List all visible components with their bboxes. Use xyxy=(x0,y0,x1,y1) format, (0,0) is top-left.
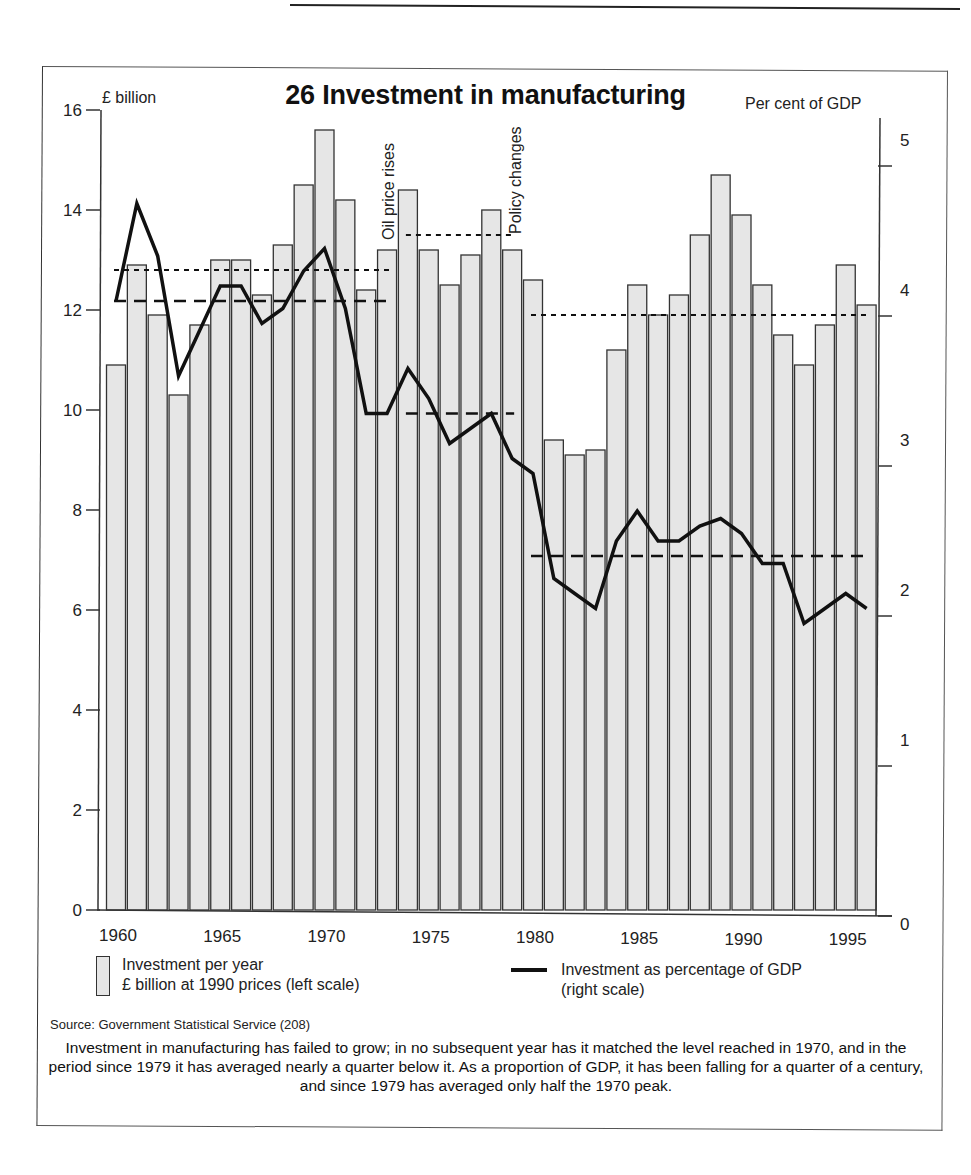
bar-1964 xyxy=(190,325,209,910)
annotation-oil-price-rises: Oil price rises xyxy=(380,143,397,240)
bar-1974 xyxy=(398,190,417,910)
bar-1992 xyxy=(774,335,793,910)
x-tick-label: 1980 xyxy=(516,928,554,947)
bar-1993 xyxy=(795,365,814,910)
right-tick-label: 0 xyxy=(900,915,909,934)
source-note: Source: Government Statistical Service (… xyxy=(50,1017,310,1032)
left-tick-label: 4 xyxy=(73,701,82,720)
legend-bars: Investment per year £ billion at 1990 pr… xyxy=(96,955,359,995)
bar-1976 xyxy=(440,285,459,910)
x-tick-label: 1990 xyxy=(725,930,763,949)
bar-1991 xyxy=(753,285,772,910)
bar-1983 xyxy=(586,450,605,910)
bar-1984 xyxy=(607,350,626,910)
right-tick-label: 2 xyxy=(900,581,909,600)
bar-1990 xyxy=(732,215,751,910)
legend-bars-line1: Investment per year xyxy=(122,955,359,975)
left-tick-label: 6 xyxy=(73,601,82,620)
bar-1960 xyxy=(107,365,126,910)
left-axis-unit: £ billion xyxy=(102,89,156,106)
left-tick-label: 14 xyxy=(63,201,82,220)
bar-swatch-icon xyxy=(96,956,110,996)
x-tick-label: 1975 xyxy=(412,928,450,947)
bar-1980 xyxy=(524,280,543,910)
bar-1969 xyxy=(294,185,313,910)
bar-1962 xyxy=(148,315,167,910)
bar-1982 xyxy=(565,455,584,910)
caption-text: Investment in manufacturing has failed t… xyxy=(48,1038,924,1095)
bar-1986 xyxy=(649,315,668,910)
bar-1985 xyxy=(628,285,647,910)
x-tick-label: 1965 xyxy=(203,927,241,946)
bar-1994 xyxy=(815,325,834,910)
right-tick-label: 4 xyxy=(900,281,909,300)
bar-1968 xyxy=(273,245,292,910)
bar-1966 xyxy=(232,260,251,910)
bar-series xyxy=(107,130,877,910)
right-tick-label: 5 xyxy=(900,131,909,150)
bar-1989 xyxy=(711,175,730,910)
bar-1987 xyxy=(669,295,688,910)
bar-1988 xyxy=(690,235,709,910)
bar-1965 xyxy=(211,260,230,910)
legend-bars-line2: £ billion at 1990 prices (left scale) xyxy=(122,975,359,995)
annotation-policy-changes: Policy changes xyxy=(507,126,524,234)
bar-1963 xyxy=(169,395,188,910)
x-tick-label: 1995 xyxy=(829,930,867,949)
legend-line-line2: (right scale) xyxy=(561,980,802,1000)
bar-1973 xyxy=(378,250,397,910)
legend-line-line1: Investment as percentage of GDP xyxy=(561,960,802,980)
bar-1977 xyxy=(461,255,480,910)
left-tick-label: 12 xyxy=(63,301,82,320)
bar-1978 xyxy=(482,210,501,910)
left-tick-label: 0 xyxy=(73,901,82,920)
right-tick-label: 3 xyxy=(900,431,909,450)
chart-area: 0246810121416012345196019651970197519801… xyxy=(0,0,971,1000)
x-tick-label: 1970 xyxy=(308,927,346,946)
x-tick-label: 1960 xyxy=(99,926,137,945)
left-tick-label: 10 xyxy=(63,401,82,420)
right-axis-unit: Per cent of GDP xyxy=(745,95,862,112)
right-tick-label: 1 xyxy=(900,731,909,750)
legend-line: Investment as percentage of GDP (right s… xyxy=(511,960,802,1000)
bar-1979 xyxy=(503,250,522,910)
line-swatch-icon xyxy=(511,968,547,972)
bar-1981 xyxy=(544,440,563,910)
x-tick-label: 1985 xyxy=(620,929,658,948)
left-tick-label: 16 xyxy=(63,101,82,120)
bar-1961 xyxy=(127,265,146,910)
bar-1967 xyxy=(252,295,271,910)
bar-1995 xyxy=(836,265,855,910)
bar-1975 xyxy=(419,250,438,910)
left-tick-label: 8 xyxy=(73,501,82,520)
left-tick-label: 2 xyxy=(73,801,82,820)
